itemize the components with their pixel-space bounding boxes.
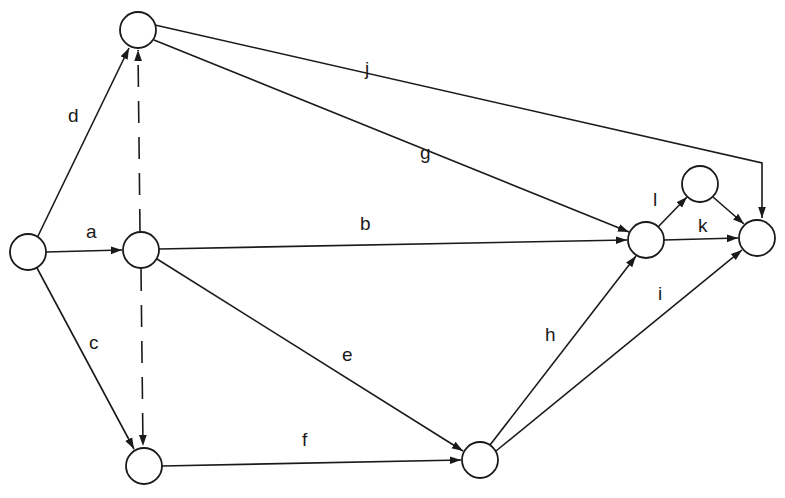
edge-b	[159, 240, 627, 249]
edge-c	[37, 268, 134, 449]
node-b-end	[628, 222, 664, 258]
dummy-edge-up	[138, 50, 140, 231]
edge-j	[155, 25, 762, 218]
node-top	[120, 12, 156, 48]
node-low	[126, 448, 162, 484]
label-b: b	[360, 213, 371, 234]
node-l-end	[682, 166, 718, 202]
edge-d	[38, 48, 129, 236]
label-d: d	[68, 105, 79, 126]
label-i: i	[658, 283, 662, 304]
edge-h	[490, 256, 636, 445]
edge-e	[157, 259, 463, 451]
edge-g	[154, 40, 629, 232]
edge-i	[496, 250, 742, 451]
label-g: g	[420, 142, 431, 163]
edge-f	[162, 460, 461, 466]
network-diagram: a d c b e g j f h i l k	[0, 0, 785, 498]
edge-a	[46, 250, 122, 252]
node-f-end	[462, 442, 498, 478]
node-mid	[123, 232, 159, 268]
edge-k	[664, 238, 738, 240]
edge-l	[658, 197, 687, 227]
edge-l-to-finish	[713, 197, 744, 224]
label-c: c	[89, 332, 99, 353]
label-a: a	[86, 221, 97, 242]
node-start	[10, 234, 46, 270]
label-f: f	[302, 429, 308, 450]
node-finish	[739, 220, 775, 256]
dummy-edge-down	[141, 269, 143, 446]
label-e: e	[342, 344, 353, 365]
label-l: l	[653, 189, 657, 210]
label-h: h	[545, 324, 556, 345]
label-k: k	[698, 215, 708, 236]
label-j: j	[364, 58, 369, 79]
